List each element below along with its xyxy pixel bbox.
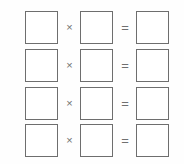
equation-row: × = bbox=[0, 11, 184, 44]
multiply-icon: × bbox=[60, 11, 79, 44]
factor-a-box[interactable] bbox=[25, 87, 58, 120]
factor-b-box[interactable] bbox=[80, 124, 113, 157]
factor-b-box[interactable] bbox=[80, 11, 113, 44]
factor-b-box[interactable] bbox=[80, 87, 113, 120]
equals-icon: = bbox=[115, 87, 135, 120]
factor-a-box[interactable] bbox=[25, 124, 58, 157]
product-box[interactable] bbox=[136, 124, 169, 157]
equation-row: × = bbox=[0, 124, 184, 157]
equation-row: × = bbox=[0, 87, 184, 120]
product-box[interactable] bbox=[136, 49, 169, 82]
multiply-icon: × bbox=[60, 87, 79, 120]
factor-a-box[interactable] bbox=[25, 11, 58, 44]
equals-icon: = bbox=[115, 124, 135, 157]
factor-b-box[interactable] bbox=[80, 49, 113, 82]
equals-icon: = bbox=[115, 11, 135, 44]
multiply-icon: × bbox=[60, 124, 79, 157]
product-box[interactable] bbox=[136, 11, 169, 44]
multiplication-worksheet: × = × = × = × = bbox=[0, 0, 184, 164]
equation-row: × = bbox=[0, 49, 184, 82]
multiply-icon: × bbox=[60, 49, 79, 82]
factor-a-box[interactable] bbox=[25, 49, 58, 82]
product-box[interactable] bbox=[136, 87, 169, 120]
equals-icon: = bbox=[115, 49, 135, 82]
